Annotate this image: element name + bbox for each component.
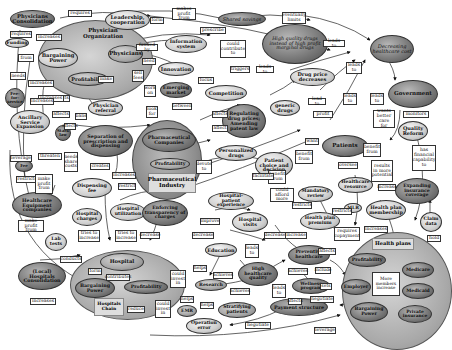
edge-label: increases bbox=[112, 172, 136, 179]
node-profitability-hospital: Profitability bbox=[124, 280, 168, 294]
edge-label: results in more potential bbox=[371, 160, 393, 182]
node-mandatory-review: Mandatory review bbox=[298, 186, 333, 202]
edge-label: needs bbox=[10, 72, 26, 80]
label-pharmaceutical-industry: Pharmaceutical Industry bbox=[148, 173, 196, 193]
node-claim-data: Claim data bbox=[420, 212, 442, 232]
edge-label: sell fees bbox=[132, 70, 144, 82]
node-hospital-utilization: Hospital utilization bbox=[110, 203, 146, 221]
edge-label: contributes bbox=[106, 274, 130, 281]
edge-label: leads to bbox=[245, 244, 259, 258]
node-personalized-drugs: Personalized drugs bbox=[215, 145, 257, 161]
node-emr: EMR bbox=[177, 305, 197, 317]
node-innovation: Innovation bbox=[158, 62, 194, 76]
edge-label: need bbox=[142, 58, 156, 65]
node-local-hospitals-consolidation: (Local) Hospitals Consolidation bbox=[18, 262, 66, 290]
node-high-healthcare-quality: High healthcare quality bbox=[238, 262, 278, 286]
edge-label: funded by bbox=[136, 44, 158, 51]
node-government: Government bbox=[388, 80, 438, 108]
edge-label: affects bbox=[318, 248, 336, 255]
node-private-insurance: Private insurance bbox=[398, 305, 432, 323]
edge-label: form bbox=[150, 17, 164, 24]
edge-label: leverage bbox=[314, 327, 336, 334]
edge-label: could afford more bbox=[270, 188, 294, 202]
edge-label: improve bbox=[200, 218, 220, 225]
edge-label: needs share costs bbox=[64, 152, 78, 172]
edge-label: hold bbox=[427, 235, 441, 242]
edge-label: form bbox=[88, 268, 102, 275]
node-healthcare-resource: Healthcare resource bbox=[338, 177, 373, 193]
edge-label: threaten bbox=[38, 153, 62, 160]
edge-label: helps bbox=[200, 302, 214, 309]
edge-label: increases bbox=[36, 34, 62, 41]
edge-label: wants better care for bbox=[373, 110, 395, 128]
node-profitability-health-plans: Profitability bbox=[348, 253, 386, 267]
edge-label: achieves bbox=[230, 288, 250, 295]
edge-label: increases bbox=[30, 98, 54, 105]
edge-label: increases bbox=[364, 226, 388, 233]
edge-label: make profit from bbox=[18, 220, 44, 232]
node-lab-tests: Lab tests bbox=[45, 233, 67, 251]
edge-label: benefit from bbox=[295, 150, 313, 164]
edge-label: increase bbox=[378, 184, 396, 191]
node-shared-savings: Shared savings bbox=[218, 12, 266, 26]
edge-label: triggers bbox=[230, 66, 250, 73]
node-hospital: Hospital bbox=[100, 253, 144, 271]
node-healthcare-equipment-companies: Healthcare Equipment companies bbox=[12, 192, 62, 218]
edge-label: oversee bbox=[338, 162, 358, 169]
node-operation-error: Operation error bbox=[186, 318, 222, 334]
edge-label: leads to bbox=[370, 93, 384, 105]
edge-label: leads to bbox=[256, 66, 274, 73]
node-health-plan-membership: Health plan membership bbox=[366, 200, 406, 220]
edge-label: affect bbox=[212, 125, 228, 132]
node-employer: Employer bbox=[341, 279, 371, 295]
edge-label: affects bbox=[212, 111, 228, 118]
node-fee-for-service: Fee-for-service bbox=[5, 88, 25, 108]
node-hospital-visits: Hospital visits bbox=[232, 212, 268, 232]
node-expanding-insurance-coverage: Expanding insurance coverage bbox=[395, 178, 439, 204]
edge-label: could invest in bbox=[170, 270, 186, 288]
edge-label: benefit from bbox=[363, 143, 381, 157]
edge-label: bans bbox=[75, 113, 87, 120]
node-drug-price-decreases: Drug price decreases bbox=[290, 68, 335, 86]
edge-label: work on bbox=[144, 85, 156, 97]
label-health-plans: Health plans bbox=[372, 238, 414, 250]
node-decreasing-healthcare-cost: Decreasing healthcare cost bbox=[370, 35, 414, 63]
edge-label: could contribute to bbox=[220, 40, 246, 58]
node-high-quality-drugs: High quality drugs instead of high profi… bbox=[262, 24, 328, 64]
edge-label: tries to increase bbox=[78, 230, 100, 242]
edge-label: focus bbox=[198, 77, 214, 84]
edge-label: affects bbox=[52, 111, 70, 118]
node-information-system: Information system bbox=[165, 35, 207, 53]
node-funding: Funding bbox=[5, 38, 29, 48]
edge-label: helps bbox=[180, 296, 194, 303]
node-research: Research bbox=[195, 279, 227, 291]
edge-label: restricts bbox=[332, 208, 352, 215]
node-education: Education bbox=[205, 243, 237, 257]
node-medicaid: Medicaid bbox=[402, 283, 434, 299]
edge-label: profit bbox=[313, 111, 333, 118]
edge-label: negotiate bbox=[245, 322, 271, 329]
node-pharmaceutical-companies: Pharmaceutical Companies bbox=[142, 128, 196, 152]
label-more-members-increase: More members increase bbox=[372, 272, 400, 296]
edge-label: increases bbox=[28, 80, 54, 87]
label-hospitals-chain: Hospitals Chain bbox=[94, 298, 124, 316]
node-quality-reform: Quality Reform bbox=[398, 121, 428, 141]
edge-label: look for bbox=[146, 106, 158, 118]
edge-label: leads to bbox=[343, 93, 357, 105]
edge-label: reduce bbox=[127, 306, 145, 313]
node-bargaining-power-hospital: Bargaining Power bbox=[75, 278, 115, 298]
edge-label: makes profit from bbox=[172, 8, 196, 20]
edge-label: could invest in bbox=[155, 300, 171, 318]
edge-label: facilitate bbox=[252, 173, 274, 180]
edge-label: decrease bbox=[264, 232, 286, 239]
edge-label: tries to increase bbox=[115, 230, 137, 242]
node-bargaining-power-health-plans: Bargaining Power bbox=[350, 302, 388, 322]
node-hospital-charges: Hospital charges bbox=[72, 208, 102, 226]
edge-label: lead to bbox=[308, 98, 326, 105]
edge-label: between bbox=[172, 103, 192, 110]
node-emerging-market: Emerging market bbox=[160, 82, 192, 98]
edge-label: negotiate bbox=[310, 296, 334, 303]
node-bargaining-power-physicians: Bargaining Power bbox=[38, 48, 78, 68]
edge-label: requires bbox=[10, 31, 32, 38]
